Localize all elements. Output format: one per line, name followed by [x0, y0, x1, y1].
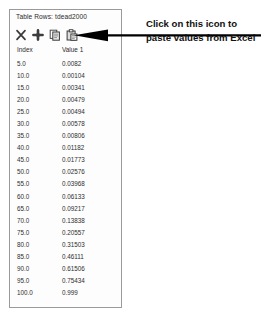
cell-value1: 0.00494 — [62, 108, 85, 115]
cell-value1: 0.13838 — [62, 217, 85, 224]
table-column-headers: Index Value 1 — [10, 46, 121, 59]
cell-value1: 0.03968 — [62, 180, 85, 187]
cell-index: 15.0 — [17, 84, 29, 91]
cell-index: 25.0 — [17, 108, 29, 115]
cell-value1: 0.61506 — [62, 265, 85, 272]
copy-icon[interactable] — [49, 29, 61, 41]
table-row[interactable]: 5.00.0082 — [10, 60, 121, 72]
table-rows-panel: Table Rows: tdead2000 — [9, 9, 122, 308]
table-row[interactable]: 85.00.46111 — [10, 253, 121, 265]
cell-value1: 0.09217 — [62, 205, 85, 212]
cell-index: 10.0 — [17, 72, 29, 79]
table-row[interactable]: 25.00.00494 — [10, 108, 121, 120]
cell-index: 90.0 — [17, 265, 29, 272]
table-row[interactable]: 75.00.20557 — [10, 229, 121, 241]
cell-value1: 0.31503 — [62, 241, 85, 248]
table-row[interactable]: 55.00.03968 — [10, 180, 121, 192]
cell-index: 80.0 — [17, 241, 29, 248]
table-row[interactable]: 45.00.01773 — [10, 156, 121, 168]
screenshot-root: Table Rows: tdead2000 — [0, 0, 266, 330]
table-row[interactable]: 40.00.01182 — [10, 144, 121, 156]
table-row[interactable]: 65.00.09217 — [10, 205, 121, 217]
bottom-caption — [6, 320, 146, 326]
cell-index: 5.0 — [17, 60, 26, 67]
cell-index: 40.0 — [17, 144, 29, 151]
table-row[interactable]: 15.00.00341 — [10, 84, 121, 96]
cell-index: 55.0 — [17, 180, 29, 187]
cell-index: 100.0 — [17, 289, 33, 296]
cell-index: 70.0 — [17, 217, 29, 224]
panel-toolbar — [15, 27, 117, 42]
column-header-value1: Value 1 — [62, 46, 83, 53]
table-row[interactable]: 90.00.61506 — [10, 265, 121, 277]
cell-value1: 0.00341 — [62, 84, 85, 91]
table-row[interactable]: 30.00.00578 — [10, 120, 121, 132]
panel-title: Table Rows: tdead2000 — [16, 13, 87, 20]
cell-value1: 0.00578 — [62, 120, 85, 127]
cell-index: 65.0 — [17, 205, 29, 212]
table-row[interactable]: 10.00.00104 — [10, 72, 121, 84]
annotation-text: Click on this icon to paste values from … — [146, 17, 264, 44]
cell-index: 20.0 — [17, 96, 29, 103]
cell-value1: 0.75434 — [62, 277, 85, 284]
cell-index: 75.0 — [17, 229, 29, 236]
cell-index: 45.0 — [17, 156, 29, 163]
cell-index: 30.0 — [17, 120, 29, 127]
cell-index: 35.0 — [17, 132, 29, 139]
cell-value1: 0.00479 — [62, 96, 85, 103]
table-row[interactable]: 100.00.999 — [10, 289, 121, 301]
cell-index: 95.0 — [17, 277, 29, 284]
cell-value1: 0.00806 — [62, 132, 85, 139]
cell-value1: 0.999 — [62, 289, 78, 296]
table-row[interactable]: 20.00.00479 — [10, 96, 121, 108]
cell-value1: 0.02576 — [62, 168, 85, 175]
cell-value1: 0.00104 — [62, 72, 85, 79]
column-header-index: Index — [17, 46, 33, 53]
table-row[interactable]: 35.00.00806 — [10, 132, 121, 144]
table-body: 5.00.008210.00.0010415.00.0034120.00.004… — [10, 60, 121, 305]
cell-value1: 0.06133 — [62, 193, 85, 200]
table-row[interactable]: 50.00.02576 — [10, 168, 121, 180]
cell-index: 85.0 — [17, 253, 29, 260]
table-row[interactable]: 60.00.06133 — [10, 193, 121, 205]
table-row[interactable]: 80.00.31503 — [10, 241, 121, 253]
table-row[interactable]: 70.00.13838 — [10, 217, 121, 229]
table-row[interactable]: 95.00.75434 — [10, 277, 121, 289]
cell-value1: 0.20557 — [62, 229, 85, 236]
cell-value1: 0.0082 — [62, 60, 81, 67]
cell-value1: 0.01773 — [62, 156, 85, 163]
cell-value1: 0.46111 — [62, 253, 84, 260]
add-row-icon[interactable] — [32, 29, 44, 41]
delete-row-icon[interactable] — [15, 29, 27, 41]
cell-index: 50.0 — [17, 168, 29, 175]
cell-index: 60.0 — [17, 193, 29, 200]
cell-value1: 0.01182 — [62, 144, 84, 151]
paste-icon[interactable] — [66, 29, 78, 41]
